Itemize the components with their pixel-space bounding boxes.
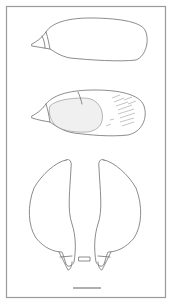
hatching-lines <box>106 95 136 126</box>
figure-plate <box>0 0 170 304</box>
figure-frame <box>7 7 166 298</box>
figure-svg <box>0 0 170 304</box>
specimen-lateral-view <box>32 18 147 61</box>
hinge-plate <box>79 257 90 261</box>
specimen-paired-valves <box>29 159 140 270</box>
specimen-detailed-view <box>32 90 145 136</box>
